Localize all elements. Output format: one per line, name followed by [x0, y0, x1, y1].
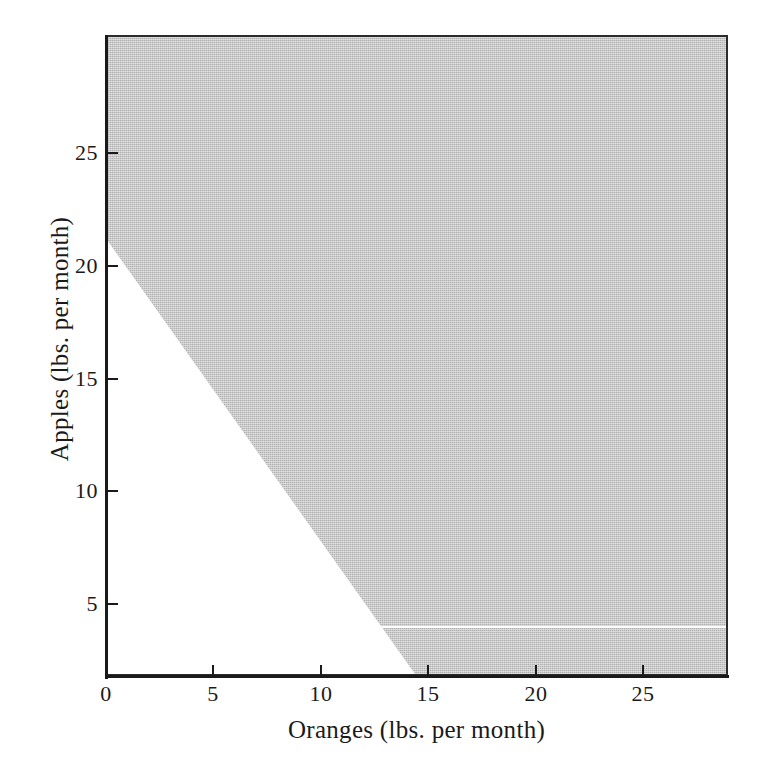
x-tick-label-5: 5	[183, 681, 243, 707]
x-tick-mark-25	[642, 665, 644, 676]
x-tick-mark-10	[320, 665, 322, 676]
y-tick-mark-5	[107, 603, 118, 605]
y-tick-mark-20	[107, 265, 118, 267]
y-tick-mark-10	[107, 490, 118, 492]
x-tick-mark-20	[535, 665, 537, 676]
figure-canvas: 0 5 10 15 20 25 5 10 15 20 25 Oranges (l…	[0, 0, 769, 783]
x-tick-label-20: 20	[506, 681, 566, 707]
x-tick-mark-5	[212, 665, 214, 676]
x-tick-label-10: 10	[291, 681, 351, 707]
y-tick-mark-15	[107, 378, 118, 380]
x-axis-title: Oranges (lbs. per month)	[105, 716, 728, 744]
plot-area	[105, 35, 728, 676]
x-tick-label-0: 0	[76, 681, 136, 707]
shaded-region	[105, 35, 728, 676]
x-tick-label-15: 15	[398, 681, 458, 707]
x-tick-label-25: 25	[613, 681, 673, 707]
x-tick-mark-0	[105, 665, 107, 676]
y-axis-line	[105, 35, 108, 679]
x-tick-mark-15	[427, 665, 429, 676]
y-axis-title: Apples (lbs. per month)	[46, 19, 74, 660]
y-tick-mark-25	[107, 152, 118, 154]
scan-artifact-line	[105, 626, 728, 628]
x-axis-line	[105, 675, 729, 678]
